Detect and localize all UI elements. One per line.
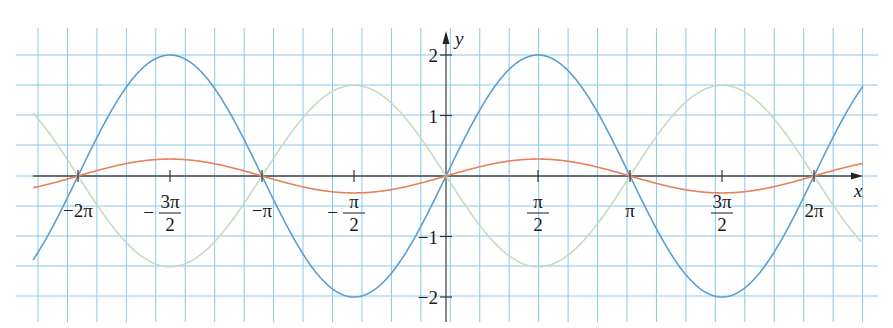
fraction-numerator: 3π bbox=[712, 191, 732, 212]
fraction-sign: − bbox=[327, 202, 338, 223]
y-tick-label: 1 bbox=[429, 106, 439, 127]
x-tick-fraction-label: π2 bbox=[527, 191, 549, 235]
fraction-sign: − bbox=[143, 202, 154, 223]
fraction-denominator: 2 bbox=[165, 214, 175, 235]
y-tick-label: −1 bbox=[418, 227, 438, 248]
x-tick-fraction-label: 3π2 bbox=[711, 191, 733, 235]
x-tick-label: 2π bbox=[804, 200, 824, 221]
fraction-denominator: 2 bbox=[533, 214, 543, 235]
x-axis-label: x bbox=[853, 180, 863, 201]
x-tick-label: π bbox=[625, 200, 635, 221]
y-axis-arrow-icon bbox=[443, 31, 450, 44]
x-tick-label: −π bbox=[252, 200, 273, 221]
fraction-denominator: 2 bbox=[349, 214, 359, 235]
fraction-numerator: 3π bbox=[160, 191, 180, 212]
sine-curves-chart: xy −2π3π2−−ππ2−π2π3π22π21−1−2 bbox=[0, 0, 893, 328]
x-tick-label: −2π bbox=[63, 200, 93, 221]
y-tick-label: −2 bbox=[418, 287, 438, 308]
fraction-numerator: π bbox=[349, 191, 359, 212]
y-tick-label: 2 bbox=[429, 45, 439, 66]
y-axis-label: y bbox=[453, 28, 464, 49]
fraction-denominator: 2 bbox=[717, 214, 727, 235]
x-tick-fraction-label: 3π2− bbox=[143, 191, 181, 235]
x-axis-arrow-icon bbox=[851, 173, 863, 180]
fraction-numerator: π bbox=[533, 191, 543, 212]
